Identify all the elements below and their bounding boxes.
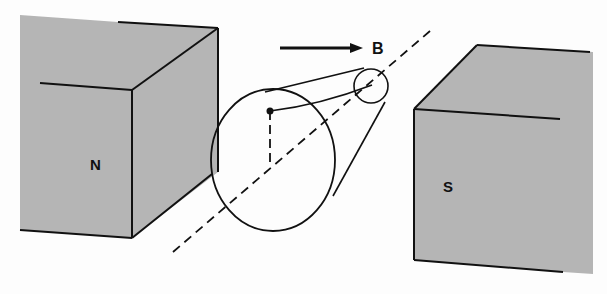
- field-label: B: [372, 40, 384, 57]
- north-pole-label: N: [90, 156, 101, 173]
- radius-curve: [270, 85, 372, 111]
- south-magnet: S: [414, 45, 593, 274]
- field-arrow: [280, 43, 363, 53]
- north-magnet: N: [20, 15, 218, 238]
- cone-edge-bottom: [333, 102, 385, 196]
- magnet-diagram: N S B: [0, 0, 607, 294]
- cone-edge-top: [265, 68, 364, 92]
- diagram-canvas: N S B: [0, 0, 607, 294]
- south-pole-label: S: [443, 178, 453, 195]
